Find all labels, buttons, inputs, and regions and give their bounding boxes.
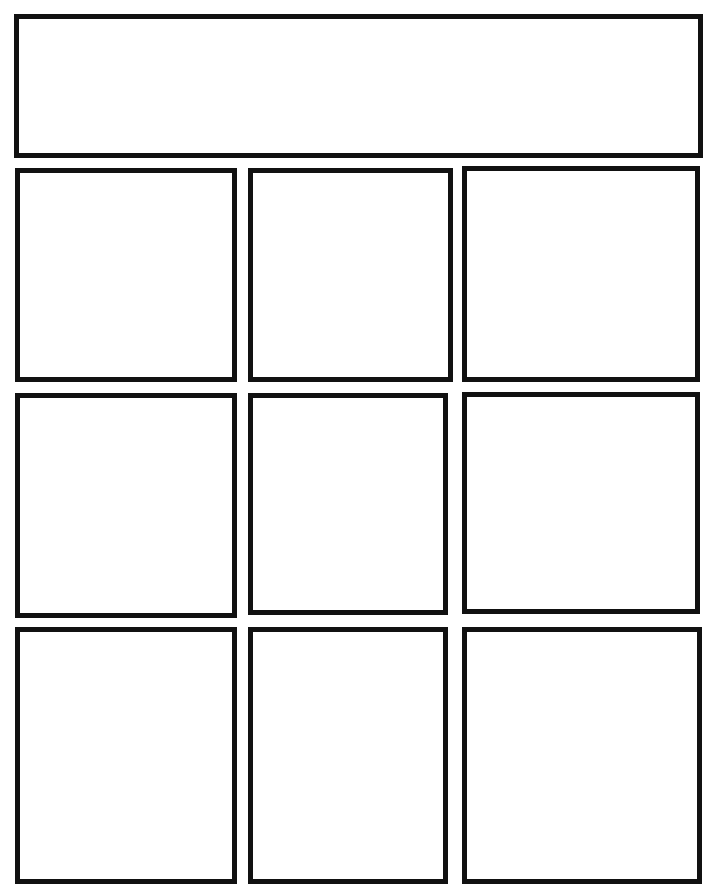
panel-row3-col2 bbox=[248, 627, 448, 884]
panel-row3-col1 bbox=[15, 627, 237, 884]
panel-row1-col3 bbox=[462, 166, 700, 382]
panel-row2-col2 bbox=[248, 393, 448, 615]
panel-row1-col1 bbox=[15, 168, 237, 382]
panel-row1-col2 bbox=[248, 168, 453, 382]
panel-row3-col3 bbox=[462, 627, 702, 884]
panel-row2-col3 bbox=[462, 392, 700, 614]
panel-row2-col1 bbox=[15, 393, 237, 618]
title-panel bbox=[14, 14, 703, 158]
